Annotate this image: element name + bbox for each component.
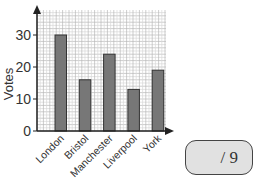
category-label-york: York	[140, 131, 164, 155]
category-label-london: London	[33, 132, 66, 165]
bar-liverpool	[128, 89, 139, 131]
y-ticks: 0 10 20 30	[15, 27, 37, 139]
score-text: / 9	[221, 148, 238, 168]
bar-york	[152, 70, 164, 131]
y-axis-title: Votes	[1, 67, 16, 100]
bar-london	[55, 35, 67, 131]
bar-bristol	[79, 80, 91, 131]
category-labels: LondonBristolManchesterLiverpoolYork	[33, 131, 164, 179]
y-axis-arrow-icon	[33, 5, 41, 14]
y-tick-0: 0	[23, 123, 31, 139]
score-box: / 9	[185, 140, 253, 175]
x-axis-arrow-icon	[165, 127, 174, 135]
y-tick-20: 20	[15, 59, 31, 75]
y-tick-30: 30	[15, 27, 31, 43]
y-tick-10: 10	[15, 91, 31, 107]
bar-manchester	[104, 54, 116, 131]
